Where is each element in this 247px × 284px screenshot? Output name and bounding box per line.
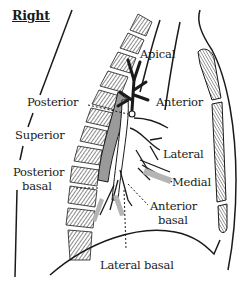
label-anterior-basal-line1: Anterior xyxy=(150,200,197,212)
body-outline-left xyxy=(15,10,72,277)
label-posterior-basal-line2: basal xyxy=(22,180,52,192)
label-anterior-basal-line2: basal xyxy=(158,214,188,226)
label-apical: Apical xyxy=(140,48,175,60)
label-posterior-basal-line1: Posterior xyxy=(13,166,64,178)
label-posterior: Posterior xyxy=(27,96,78,108)
label-superior: Superior xyxy=(15,129,64,141)
label-lateral-basal: Lateral basal xyxy=(100,259,174,271)
label-lateral: Lateral xyxy=(163,148,204,160)
diagram-title: Right xyxy=(12,10,50,22)
lung-diagram: Right Apical Posterior Anterior Superior… xyxy=(0,0,247,284)
label-anterior: Anterior xyxy=(156,96,203,108)
diagram-illustration xyxy=(0,0,247,284)
label-medial: Medial xyxy=(172,176,211,188)
